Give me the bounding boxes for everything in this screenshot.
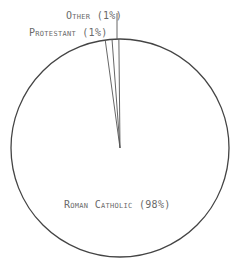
label-other: Other (1%) bbox=[66, 10, 122, 21]
label-roman-catholic: Roman Catholic (98%) bbox=[64, 199, 171, 210]
pie-chart bbox=[0, 0, 248, 267]
label-protestant: Protestant (1%) bbox=[29, 27, 108, 38]
